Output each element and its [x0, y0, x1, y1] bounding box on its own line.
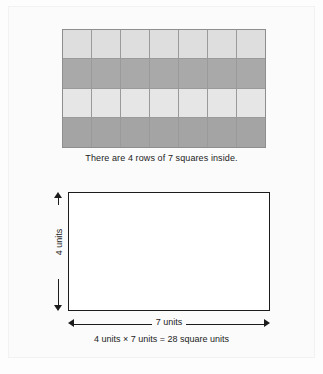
- grid-cell: [63, 89, 92, 118]
- grid-cell: [208, 59, 237, 88]
- grid-cell: [179, 59, 208, 88]
- grid-cell: [179, 118, 208, 147]
- grid-cell: [179, 30, 208, 59]
- height-label: 4 units: [53, 205, 65, 279]
- grid-cell: [179, 89, 208, 118]
- grid-cell: [237, 118, 265, 147]
- grid-cell: [92, 30, 121, 59]
- grid-cell: [150, 59, 179, 88]
- unit-square-grid: [62, 29, 266, 148]
- grid-cell: [208, 89, 237, 118]
- grid-cell: [237, 89, 265, 118]
- grid-cell: [237, 59, 265, 88]
- width-label: 7 units: [152, 317, 187, 327]
- grid-cell: [92, 118, 121, 147]
- grid-cell: [92, 59, 121, 88]
- grid-cell: [237, 30, 265, 59]
- grid-row: [63, 59, 265, 88]
- grid-cell: [121, 30, 150, 59]
- grid-cell: [208, 30, 237, 59]
- grid-row: [63, 118, 265, 147]
- grid-cell: [208, 118, 237, 147]
- grid-cell: [63, 30, 92, 59]
- grid-cell: [121, 59, 150, 88]
- area-rectangle: [68, 192, 270, 311]
- area-equation: 4 units × 7 units = 28 square units: [0, 334, 323, 344]
- grid-cell: [63, 118, 92, 147]
- grid-cell: [63, 59, 92, 88]
- width-dimension-arrow: 7 units: [68, 318, 270, 332]
- footer-partial-text: [10, 366, 260, 374]
- grid-cell: [150, 30, 179, 59]
- grid-caption: There are 4 rows of 7 squares inside.: [0, 153, 323, 163]
- arrow-down-icon: [54, 305, 62, 311]
- height-dimension-arrow: 4 units: [50, 192, 68, 311]
- grid-cell: [150, 118, 179, 147]
- grid-cell: [92, 89, 121, 118]
- grid-cell: [121, 89, 150, 118]
- area-figure-card: There are 4 rows of 7 squares inside. 4 …: [0, 0, 323, 374]
- grid-row: [63, 30, 265, 59]
- width-label-wrap: 7 units: [68, 317, 270, 327]
- grid-cell: [150, 89, 179, 118]
- grid-row: [63, 89, 265, 118]
- grid-cell: [121, 118, 150, 147]
